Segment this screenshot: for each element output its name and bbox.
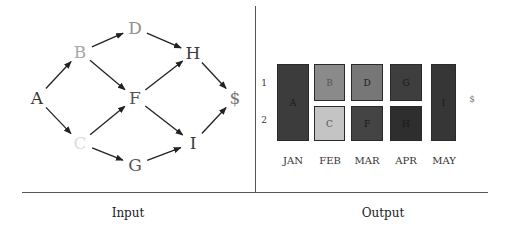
graph-node-b: B [74, 44, 87, 61]
graph-node-c: C [73, 135, 86, 152]
block-F: F [351, 106, 383, 141]
block-label: I [442, 98, 446, 108]
edge-i-s [202, 108, 226, 134]
block-label: A [290, 98, 297, 108]
edge-b-d [92, 33, 123, 47]
block-H: H [390, 106, 422, 141]
caption-divider-horizontal [22, 192, 488, 193]
month-label-feb: FEB [319, 155, 341, 166]
edge-h-s [202, 63, 226, 89]
sink-label: $ [469, 94, 475, 104]
edge-c-g [92, 148, 123, 160]
panel-divider-vertical [255, 6, 256, 192]
block-label: B [326, 78, 333, 88]
block-label: D [363, 78, 370, 88]
edge-c-f [90, 106, 125, 135]
edge-d-h [147, 33, 181, 48]
row-label-1: 1 [261, 78, 267, 88]
input-caption: Input [112, 206, 145, 220]
output-caption: Output [362, 206, 405, 220]
graph-node-h: H [186, 45, 201, 62]
block-label: C [326, 119, 333, 129]
graph-node-g: G [128, 157, 142, 174]
edge-a-c [46, 107, 71, 133]
block-G: G [390, 64, 422, 101]
block-label: F [364, 119, 370, 129]
edge-f-i [145, 106, 182, 135]
graph-node-f: F [129, 90, 141, 107]
graph-node-s: $ [230, 90, 241, 107]
block-I: I [431, 64, 456, 141]
block-A: A [277, 64, 309, 141]
month-label-jan: JAN [283, 155, 303, 166]
month-label-may: MAY [432, 155, 456, 166]
row-label-2: 2 [261, 115, 267, 125]
month-label-mar: MAR [355, 155, 380, 166]
month-label-apr: APR [395, 155, 416, 166]
edge-f-h [145, 61, 182, 90]
edge-b-f [90, 60, 125, 89]
block-label: G [402, 78, 409, 88]
graph-node-i: I [190, 135, 197, 152]
block-C: C [314, 106, 345, 141]
block-label: H [402, 119, 410, 129]
block-D: D [351, 64, 383, 101]
block-B: B [314, 64, 345, 101]
edge-g-i [147, 148, 181, 161]
graph-node-a: A [31, 90, 43, 107]
graph-node-d: D [128, 20, 142, 37]
edge-a-b [46, 62, 71, 89]
